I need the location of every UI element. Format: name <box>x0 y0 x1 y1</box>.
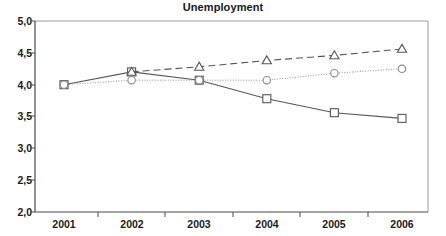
data-point-circle <box>263 77 270 84</box>
plot-frame <box>35 21 428 212</box>
data-point-circle <box>398 65 405 72</box>
plot-area <box>0 0 446 236</box>
series-line-square <box>64 72 402 119</box>
data-point-triangle <box>397 44 406 52</box>
data-point-square <box>398 114 406 122</box>
x-axis-ticks <box>98 212 368 217</box>
data-point-circle <box>128 77 135 84</box>
data-point-circle <box>196 77 203 84</box>
data-point-circle <box>331 70 338 77</box>
data-point-square <box>263 95 271 103</box>
data-point-triangle <box>330 51 339 59</box>
data-point-circle <box>60 81 67 88</box>
data-series-layer <box>60 44 407 122</box>
y-axis-ticks <box>30 21 35 212</box>
unemployment-line-chart: Unemployment 5,0 4,5 4,0 3,5 3,0 2,5 2,0… <box>0 0 446 236</box>
data-point-square <box>330 109 338 117</box>
series-line-circle <box>64 69 402 85</box>
